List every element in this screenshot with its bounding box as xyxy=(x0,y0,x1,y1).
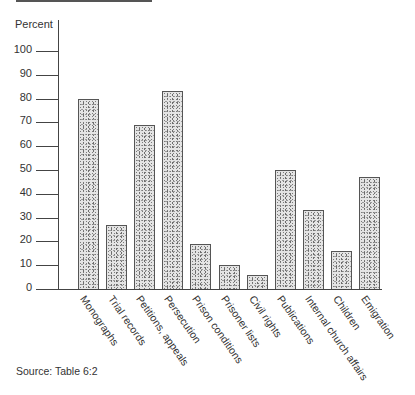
bar xyxy=(331,251,352,289)
y-axis-label: Percent xyxy=(15,18,53,30)
y-tick-label: 40 xyxy=(2,186,32,198)
y-tick xyxy=(36,194,58,195)
y-tick xyxy=(36,170,58,171)
y-tick-label: 30 xyxy=(2,210,32,222)
y-tick-label: 10 xyxy=(2,257,32,269)
y-tick-label: 90 xyxy=(2,67,32,79)
y-tick-label: 50 xyxy=(2,162,32,174)
y-tick xyxy=(36,122,58,123)
bar xyxy=(78,99,99,289)
y-tick xyxy=(36,241,58,242)
x-tick-label: Prison conditions xyxy=(190,293,246,365)
y-tick-label: 0 xyxy=(2,281,32,293)
y-axis xyxy=(58,20,59,290)
bar xyxy=(247,275,268,289)
y-tick-label: 20 xyxy=(2,233,32,245)
source-note: Source: Table 6:2 xyxy=(16,365,98,377)
x-axis xyxy=(36,289,382,290)
y-tick-label: 60 xyxy=(2,138,32,150)
bar xyxy=(359,177,380,289)
bar xyxy=(162,91,183,289)
y-tick xyxy=(36,218,58,219)
bar xyxy=(219,265,240,289)
y-tick xyxy=(36,265,58,266)
y-tick-label: 80 xyxy=(2,91,32,103)
bar xyxy=(275,170,296,289)
y-tick xyxy=(36,146,58,147)
y-tick xyxy=(36,75,58,76)
top-rule xyxy=(16,0,152,2)
x-tick-label: Emigration xyxy=(359,293,398,341)
bar xyxy=(303,210,324,289)
y-tick xyxy=(36,51,58,52)
bar xyxy=(190,244,211,289)
y-tick-label: 70 xyxy=(2,114,32,126)
y-tick xyxy=(36,99,58,100)
bar xyxy=(106,225,127,289)
bar xyxy=(134,125,155,289)
y-tick-label: 100 xyxy=(2,43,32,55)
